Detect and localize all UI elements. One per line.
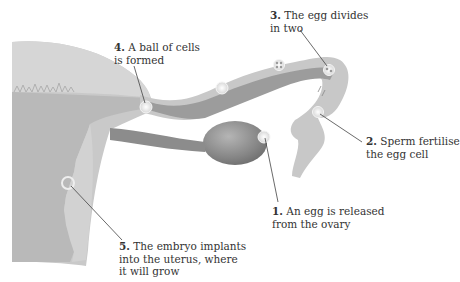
ovarian-ligament [110,128,205,152]
label-step-3: 3. The egg divides in two [270,9,368,34]
step-number: 1. [272,205,283,217]
tube-lumen [148,68,334,119]
label-step-1: 1. An egg is released from the ovary [272,205,384,230]
leader-line-1 [265,138,278,202]
label-step-4: 4. A ball of cells is formed [114,41,200,66]
cell-two-cell-egg [324,65,335,76]
step-number: 4. [114,41,125,53]
label-step-5: 5. The embryo implants into the uterus, … [119,240,246,278]
label-step-2: 2. Sperm fertilise the egg cell [366,135,460,160]
step-number: 5. [119,240,130,252]
cell-egg-released [258,131,270,143]
cell-fertilised-egg [313,107,324,118]
ovary [203,121,267,165]
step-number: 3. [270,9,281,21]
cell-four-cell [274,60,285,71]
leader-line-2 [320,114,362,142]
step-number: 2. [366,135,377,147]
cell-morula [216,82,228,94]
cell-ball-of-cells [140,101,152,113]
